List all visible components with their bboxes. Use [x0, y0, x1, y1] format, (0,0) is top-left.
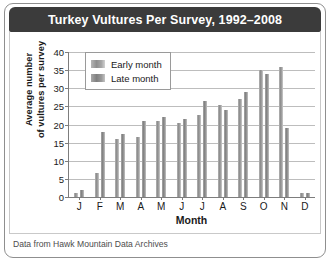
bar-group: A	[213, 52, 234, 197]
bar	[265, 74, 269, 197]
bar-group: N	[274, 52, 295, 197]
chart-legend: Early month Late month	[85, 52, 171, 90]
x-tick-mark	[79, 197, 80, 200]
legend-label-early: Early month	[111, 59, 162, 70]
x-tick-label: J	[200, 201, 205, 212]
bar	[177, 123, 181, 197]
bar	[306, 193, 310, 197]
bar	[121, 134, 125, 197]
y-tick-mark	[65, 197, 69, 198]
y-axis-title-line1: Average number	[24, 10, 36, 170]
chart-figure: Turkey Vultures Per Survey, 1992–2008 Av…	[0, 0, 331, 263]
x-tick-label: S	[240, 201, 247, 212]
bar	[115, 139, 119, 197]
bar-group: J	[172, 52, 193, 197]
bar-group: D	[295, 52, 316, 197]
x-tick-mark	[243, 197, 244, 200]
y-tick-label: 15	[53, 137, 64, 148]
bar	[285, 128, 289, 197]
y-tick-label: 10	[53, 155, 64, 166]
x-tick-mark	[182, 197, 183, 200]
y-tick-label: 30	[53, 83, 64, 94]
bar	[203, 101, 207, 197]
bar	[156, 121, 160, 197]
y-tick-label: 5	[59, 173, 64, 184]
bar	[300, 193, 304, 197]
x-tick-mark	[120, 197, 121, 200]
bar	[95, 173, 99, 197]
legend-swatch-early	[91, 60, 105, 68]
legend-swatch-late	[91, 74, 105, 82]
bar	[238, 99, 242, 197]
chart-title-bar: Turkey Vultures Per Survey, 1992–2008	[9, 7, 321, 32]
y-tick-label: 20	[53, 119, 64, 130]
bar	[101, 132, 105, 197]
bar	[197, 115, 201, 197]
bar	[259, 70, 263, 197]
legend-item-late: Late month	[91, 71, 162, 85]
bar	[80, 190, 84, 197]
bar-group: J	[192, 52, 213, 197]
bar-group: O	[254, 52, 275, 197]
x-tick-label: J	[179, 201, 184, 212]
bar	[224, 110, 228, 197]
y-axis-title: Average number of vultures per survey	[24, 10, 47, 170]
x-tick-label: M	[157, 201, 165, 212]
bar	[218, 105, 222, 197]
x-tick-mark	[264, 197, 265, 200]
y-axis-title-line2: of vultures per survey	[35, 10, 47, 170]
bar	[142, 121, 146, 197]
x-tick-mark	[284, 197, 285, 200]
x-tick-label: D	[301, 201, 308, 212]
bar	[74, 193, 78, 197]
bar-group: S	[233, 52, 254, 197]
x-tick-label: J	[77, 201, 82, 212]
x-tick-mark	[100, 197, 101, 200]
x-tick-label: A	[137, 201, 144, 212]
bar	[162, 117, 166, 197]
x-tick-label: F	[97, 201, 103, 212]
x-axis-title: Month	[68, 214, 315, 226]
legend-label-late: Late month	[111, 73, 159, 84]
bar	[183, 119, 187, 197]
x-tick-label: A	[219, 201, 226, 212]
x-tick-mark	[305, 197, 306, 200]
x-tick-label: M	[116, 201, 124, 212]
y-tick-label: 35	[53, 65, 64, 76]
x-tick-mark	[141, 197, 142, 200]
y-tick-label: 40	[53, 47, 64, 58]
bar	[136, 137, 140, 197]
x-tick-label: N	[281, 201, 288, 212]
bar	[279, 67, 283, 198]
x-tick-label: O	[260, 201, 268, 212]
x-tick-mark	[202, 197, 203, 200]
bar	[244, 92, 248, 197]
y-tick-label: 25	[53, 101, 64, 112]
x-tick-mark	[223, 197, 224, 200]
x-tick-mark	[161, 197, 162, 200]
legend-item-early: Early month	[91, 57, 162, 71]
chart-title: Turkey Vultures Per Survey, 1992–2008	[48, 13, 282, 27]
y-tick-label: 0	[59, 192, 64, 203]
source-note: Data from Hawk Mountain Data Archives	[13, 239, 168, 249]
